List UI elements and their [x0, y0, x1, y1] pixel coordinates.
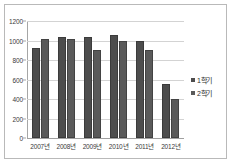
bar [110, 35, 118, 138]
y-axis-tick-mark [23, 138, 26, 139]
y-axis-tick-label: 600 [12, 76, 23, 83]
bar-group [27, 21, 53, 138]
y-axis-tick-mark [23, 40, 26, 41]
bar [136, 41, 144, 138]
legend-item[interactable]: 1학기 [191, 75, 212, 85]
bar [67, 39, 75, 138]
y-axis-tick-mark [23, 118, 26, 119]
bar [41, 39, 49, 138]
bar [162, 84, 170, 138]
x-axis-tick-label: 2009년 [79, 141, 105, 151]
legend-label: 2학기 [197, 88, 212, 98]
legend-swatch-icon [191, 91, 195, 95]
plot-area [27, 21, 184, 138]
y-axis-tick-mark [23, 60, 26, 61]
y-axis-tick-label: 1200 [9, 18, 23, 25]
legend-swatch-icon [191, 78, 195, 82]
bar [145, 50, 153, 138]
bar-series-layer [27, 21, 184, 138]
bar-group [158, 21, 184, 138]
bar [84, 37, 92, 138]
bar-group [79, 21, 105, 138]
x-axis-tick-label: 2008년 [53, 141, 79, 151]
bar-group [53, 21, 79, 138]
gridline-0 [27, 138, 184, 139]
bar [58, 37, 66, 138]
x-axis-tick-label: 2007년 [27, 141, 53, 151]
y-axis-tick-label: 800 [12, 57, 23, 64]
bar [32, 48, 40, 138]
chart-frame: 020040060080010001200 2007년2008년2009년201… [4, 4, 227, 159]
bar-group [132, 21, 158, 138]
y-axis: 020040060080010001200 [5, 21, 25, 138]
bar [119, 41, 127, 138]
y-axis-tick-label: 1000 [9, 37, 23, 44]
y-axis-tick-mark [23, 99, 26, 100]
legend-label: 1학기 [197, 75, 212, 85]
x-axis-tick-label: 2012년 [158, 141, 184, 151]
y-axis-tick-mark [23, 21, 26, 22]
x-axis-tick-label: 2011년 [132, 141, 158, 151]
y-axis-tick-mark [23, 79, 26, 80]
y-axis-tick-label: 200 [12, 115, 23, 122]
legend-item[interactable]: 2학기 [191, 88, 212, 98]
chart-legend: 1학기2학기 [191, 75, 212, 98]
x-axis: 2007년2008년2009년2010년2011년2012년 [27, 141, 184, 151]
bar-group [106, 21, 132, 138]
bar [93, 50, 101, 138]
bar [171, 99, 179, 138]
y-axis-tick-label: 400 [12, 96, 23, 103]
x-axis-tick-label: 2010년 [106, 141, 132, 151]
